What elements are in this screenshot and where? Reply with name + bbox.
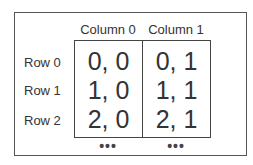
cell-1-1: 1, 1 <box>143 76 210 104</box>
cell-2-1: 2, 1 <box>143 105 210 133</box>
cell-2-0: 2, 0 <box>75 105 142 133</box>
ellipsis-column-0: ••• <box>74 138 142 154</box>
column-header-0: Column 0 <box>73 22 143 37</box>
column-header-1: Column 1 <box>141 22 211 37</box>
cell-1-0: 1, 0 <box>75 76 142 104</box>
row-label-2: Row 2 <box>24 113 61 128</box>
array-grid: 0, 0 0, 1 1, 0 1, 1 2, 0 2, 1 <box>74 40 211 138</box>
row-label-0: Row 0 <box>24 55 61 70</box>
cell-0-0: 0, 0 <box>75 47 142 75</box>
row-label-1: Row 1 <box>24 83 61 98</box>
ellipsis-column-1: ••• <box>142 138 210 154</box>
cell-0-1: 0, 1 <box>143 47 210 75</box>
